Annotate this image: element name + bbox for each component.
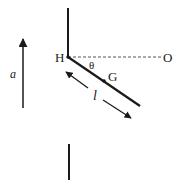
pivot-point — [66, 55, 70, 59]
pendulum-diagram: H O θ G l a — [0, 0, 181, 188]
length-arrow-lower — [103, 100, 131, 118]
length-arrow-upper — [66, 72, 88, 88]
label-pivot-h: H — [55, 50, 64, 65]
label-center-of-mass-g: G — [108, 69, 117, 84]
center-of-mass-point — [102, 79, 106, 83]
label-angle-theta: θ — [89, 59, 94, 71]
label-length-l: l — [93, 88, 97, 103]
label-acceleration-a: a — [10, 67, 16, 81]
label-point-o: O — [163, 50, 172, 65]
